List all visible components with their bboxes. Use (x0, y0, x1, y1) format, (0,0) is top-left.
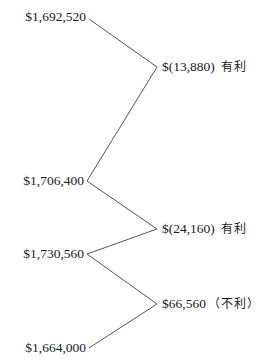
variance-1-amount: $(13,880) (162, 59, 215, 74)
amount-4: $1,664,000 (0, 340, 86, 356)
variance-2-tag: 有利 (221, 222, 247, 236)
variance-1: $(13,880)有利 (162, 59, 247, 75)
variance-diagram: $1,692,520 $1,706,400 $1,730,560 $1,664,… (0, 0, 265, 360)
variance-2-amount: $(24,160) (162, 221, 215, 236)
bracket-1 (87, 19, 157, 181)
amount-1: $1,692,520 (0, 9, 86, 25)
variance-3-amount: $66,560 (162, 296, 206, 311)
variance-3: $66,560（不利） (162, 296, 260, 312)
variance-1-tag: 有利 (221, 60, 247, 74)
amount-2: $1,706,400 (0, 173, 84, 189)
bracket-3 (87, 254, 157, 348)
variance-2: $(24,160)有利 (162, 221, 247, 237)
bracket-2 (87, 181, 157, 254)
amount-3: $1,730,560 (0, 246, 84, 262)
variance-3-tag: （不利） (208, 297, 260, 311)
